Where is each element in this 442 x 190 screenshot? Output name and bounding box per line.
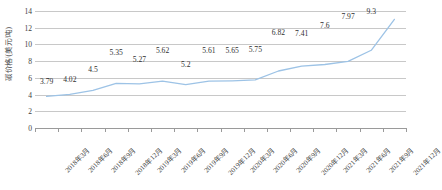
x-tick-1 (58, 128, 59, 132)
x-tick-14 (360, 128, 361, 132)
x-tick-label-0: 2018年3月 (62, 145, 91, 174)
x-tick-13 (336, 128, 337, 132)
data-label-13: 7.97 (341, 12, 354, 21)
data-label-9: 5.75 (249, 45, 262, 54)
data-label-4: 5.27 (133, 55, 146, 64)
series-polyline (47, 19, 395, 96)
y-tick-label-8: 8 (28, 57, 32, 66)
y-tick-label-10: 10 (24, 40, 32, 49)
x-tick-4 (128, 128, 129, 132)
x-tick-label-15: 2021年12月 (411, 145, 442, 177)
data-label-0: 3.79 (40, 77, 53, 86)
data-label-2: 4.5 (88, 65, 98, 74)
x-tick-11 (290, 128, 291, 132)
x-tick-0 (35, 128, 36, 132)
data-label-12: 7.6 (320, 21, 330, 30)
x-tick-9 (244, 128, 245, 132)
y-tick-label-12: 12 (24, 23, 32, 32)
y-tick-label-4: 4 (28, 90, 32, 99)
data-label-11: 7.41 (295, 29, 308, 38)
data-label-6: 5.2 (181, 60, 191, 69)
x-tick-6 (174, 128, 175, 132)
x-tick-15 (383, 128, 384, 132)
plot-area: 02468101214 2018年3月2018年6月2018年9月2018年12… (35, 11, 406, 128)
x-tick-16 (406, 128, 407, 132)
data-label-3: 5.35 (110, 48, 123, 57)
x-tick-2 (81, 128, 82, 132)
data-label-5: 5.62 (156, 46, 169, 55)
data-label-8: 5.65 (225, 46, 238, 55)
x-tick-10 (267, 128, 268, 132)
y-tick-label-6: 6 (28, 73, 32, 82)
x-tick-7 (197, 128, 198, 132)
data-label-10: 6.82 (272, 28, 285, 37)
y-tick-label-2: 2 (28, 107, 32, 116)
x-tick-12 (313, 128, 314, 132)
y-axis-title: 碳价格/(美元/吨) (5, 11, 12, 97)
data-label-1: 4.02 (63, 75, 76, 84)
y-tick-label-0: 0 (28, 124, 32, 133)
data-label-14: 9.3 (366, 7, 376, 16)
x-tick-3 (105, 128, 106, 132)
y-tick-label-14: 14 (24, 7, 32, 16)
data-label-7: 5.61 (202, 46, 215, 55)
x-tick-5 (151, 128, 152, 132)
x-tick-8 (221, 128, 222, 132)
